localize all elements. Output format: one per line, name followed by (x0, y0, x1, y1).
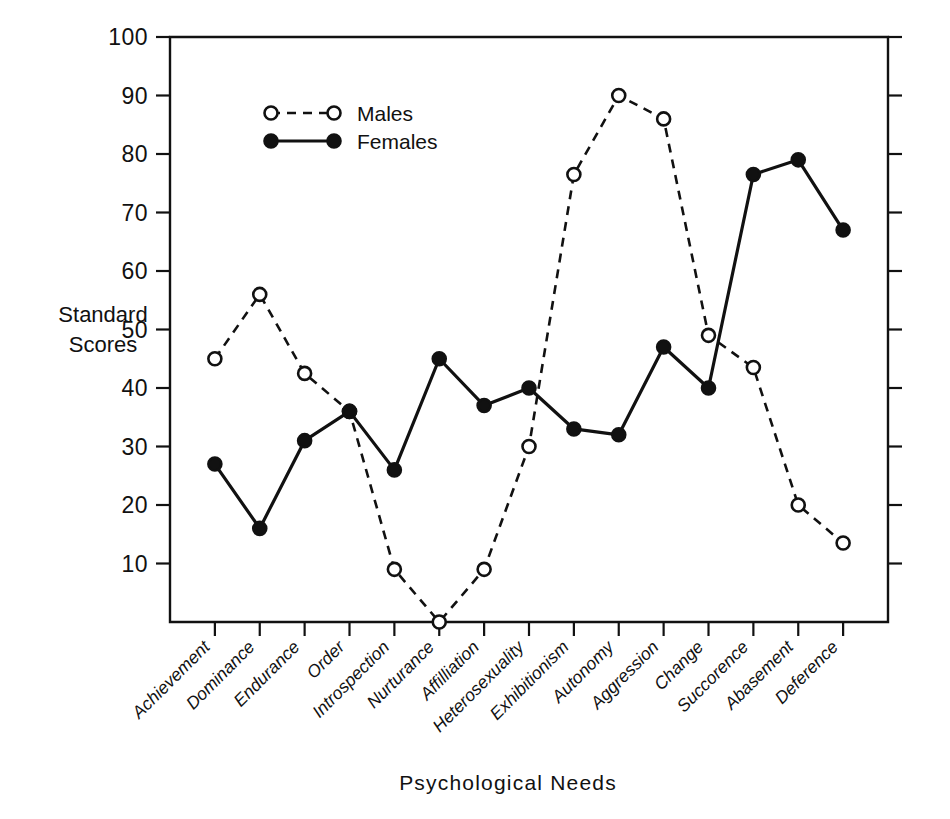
data-point-males-5 (433, 616, 446, 629)
y-tick-label-100: 100 (108, 24, 148, 50)
data-point-females-9 (612, 428, 625, 441)
data-point-females-13 (792, 153, 805, 166)
data-point-males-14 (837, 537, 850, 550)
legend-label-females: Females (357, 130, 438, 153)
data-point-males-2 (298, 367, 311, 380)
data-point-females-2 (298, 434, 311, 447)
y-axis-ticks-left (156, 37, 170, 564)
y-tick-label-20: 20 (121, 492, 148, 518)
y-tick-label-80: 80 (121, 141, 148, 167)
chart-figure: 102030405060708090100 AchievementDominan… (0, 0, 950, 819)
legend-marker-males-left (265, 107, 278, 120)
series-line-females (215, 160, 843, 529)
data-point-females-11 (702, 382, 715, 395)
chart-legend: Males Females (265, 102, 438, 153)
data-point-females-7 (523, 382, 536, 395)
data-point-females-8 (567, 422, 580, 435)
data-point-females-4 (388, 463, 401, 476)
data-point-females-3 (343, 405, 356, 418)
y-axis-title-line1: Standard (58, 302, 147, 327)
data-point-females-10 (657, 341, 670, 354)
x-axis-ticks (215, 622, 843, 636)
y-tick-label-70: 70 (121, 200, 148, 226)
x-axis-tick-labels: AchievementDominanceEnduranceOrderIntros… (127, 636, 842, 736)
legend-marker-females-right (328, 135, 341, 148)
data-point-females-0 (208, 458, 221, 471)
data-point-females-5 (433, 352, 446, 365)
plot-border (170, 37, 888, 622)
legend-entry-males: Males (265, 102, 414, 125)
y-axis-title-line2: Scores (69, 332, 137, 357)
data-point-males-13 (792, 499, 805, 512)
data-point-males-0 (208, 352, 221, 365)
line-chart-canvas: 102030405060708090100 AchievementDominan… (0, 0, 950, 819)
data-point-females-6 (478, 399, 491, 412)
data-point-males-9 (612, 89, 625, 102)
data-point-females-1 (253, 522, 266, 535)
data-point-males-12 (747, 361, 760, 374)
legend-label-males: Males (357, 102, 413, 125)
data-point-males-10 (657, 112, 670, 125)
y-tick-label-10: 10 (121, 551, 148, 577)
y-tick-label-60: 60 (121, 258, 148, 284)
data-point-males-11 (702, 329, 715, 342)
data-point-males-8 (567, 168, 580, 181)
legend-marker-males-right (328, 107, 341, 120)
data-point-females-14 (837, 224, 850, 237)
data-point-males-6 (478, 563, 491, 576)
legend-marker-females-left (265, 135, 278, 148)
x-axis-title: Psychological Needs (399, 771, 617, 794)
y-axis-tick-labels: 102030405060708090100 (108, 24, 148, 577)
y-tick-label-90: 90 (121, 83, 148, 109)
data-point-females-12 (747, 168, 760, 181)
y-axis-ticks-right (888, 37, 902, 564)
plot-frame (170, 37, 888, 622)
legend-entry-females: Females (265, 130, 438, 153)
y-tick-label-30: 30 (121, 434, 148, 460)
data-point-males-4 (388, 563, 401, 576)
data-point-males-1 (253, 288, 266, 301)
y-tick-label-40: 40 (121, 375, 148, 401)
data-series-layer (208, 89, 849, 629)
data-point-males-7 (523, 440, 536, 453)
